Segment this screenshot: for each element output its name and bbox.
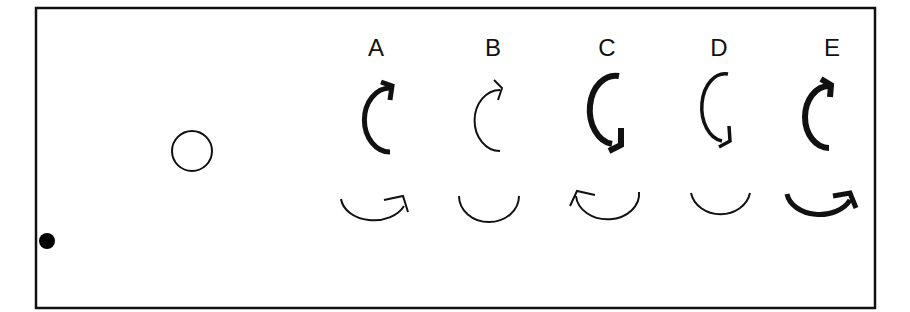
- frame-border: [36, 8, 875, 308]
- vertical-spin-arrow-icon: [590, 76, 621, 151]
- option-c: C: [570, 34, 639, 219]
- horizontal-spin-arrow-icon: [459, 196, 519, 222]
- vertical-spin-arrow-icon: [364, 82, 392, 152]
- option-label: C: [598, 34, 615, 61]
- option-label: D: [710, 34, 727, 61]
- option-b: B: [459, 34, 519, 222]
- rotation-diagram: A B C D: [0, 0, 910, 312]
- vertical-spin-arrow-icon: [475, 80, 502, 151]
- option-label: B: [485, 34, 501, 61]
- horizontal-spin-arrow-icon: [341, 196, 408, 220]
- option-a: A: [341, 34, 408, 220]
- target-circle: [172, 131, 212, 171]
- vertical-spin-arrow-icon: [702, 74, 730, 147]
- horizontal-spin-arrow-icon: [570, 191, 639, 219]
- ball: [39, 233, 55, 249]
- option-e: E: [787, 34, 856, 215]
- option-label: E: [824, 34, 840, 61]
- vertical-spin-arrow-icon: [805, 79, 831, 148]
- horizontal-spin-arrow-icon: [691, 193, 750, 214]
- option-label: A: [368, 34, 384, 61]
- option-d: D: [691, 34, 750, 214]
